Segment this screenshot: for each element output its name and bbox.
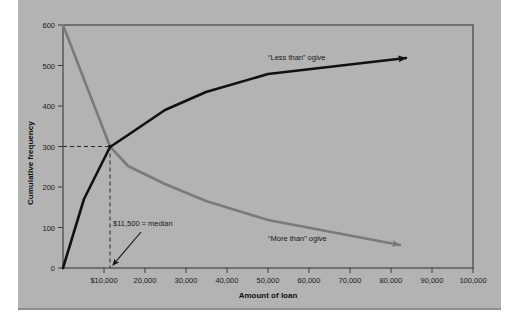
x-axis-tick-labels: $10,000 20,000 30,000 40,000 50,000 60,0… <box>90 276 486 285</box>
y-tick-label-400: 400 <box>42 102 55 111</box>
median-annotation-label: $11,500 = median <box>113 219 173 228</box>
y-tick-label-300: 300 <box>42 143 55 152</box>
median-callout-arrow <box>113 232 141 265</box>
ogive-chart: 600 500 400 300 200 100 0 Cumulative fre… <box>0 0 515 333</box>
x-axis-title: Amount of loan <box>239 291 298 300</box>
y-tick-label-100: 100 <box>42 224 55 233</box>
less-than-ogive-label: “Less than” ogive <box>268 53 326 62</box>
median-intersection-point <box>108 145 112 149</box>
x-tick-label-40000: 40,000 <box>216 276 239 285</box>
more-than-ogive-label: “More than” ogive <box>268 234 327 243</box>
x-tick-label-90000: 90,000 <box>421 276 444 285</box>
more-than-ogive-line <box>63 25 400 245</box>
median-guide-lines <box>63 147 110 269</box>
y-axis-tick-labels: 600 500 400 300 200 100 0 <box>42 21 55 273</box>
x-tick-label-10000: $10,000 <box>90 276 117 285</box>
x-tick-label-30000: 30,000 <box>175 276 198 285</box>
y-axis-ticks <box>58 25 63 268</box>
x-tick-label-100000: 100,000 <box>459 276 486 285</box>
y-tick-label-600: 600 <box>42 21 55 30</box>
figure-root: 600 500 400 300 200 100 0 Cumulative fre… <box>0 0 515 333</box>
y-tick-label-500: 500 <box>42 62 55 71</box>
y-tick-label-200: 200 <box>42 183 55 192</box>
x-tick-label-70000: 70,000 <box>339 276 362 285</box>
x-axis-ticks <box>104 268 473 273</box>
x-tick-label-80000: 80,000 <box>380 276 403 285</box>
x-tick-label-20000: 20,000 <box>134 276 157 285</box>
y-axis-title: Cumulative frequency <box>26 121 35 205</box>
x-tick-label-50000: 50,000 <box>257 276 280 285</box>
y-tick-label-0: 0 <box>51 264 55 273</box>
x-tick-label-60000: 60,000 <box>298 276 321 285</box>
